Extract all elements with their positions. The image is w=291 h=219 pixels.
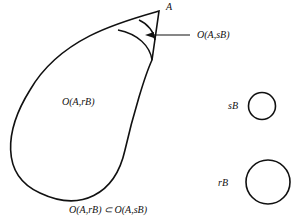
point-a-label: A: [166, 2, 172, 12]
large-ball-circle: [246, 160, 290, 204]
small-ball-circle: [249, 93, 276, 120]
caption: O(A,rB) ⊂ O(A,sB): [69, 205, 147, 215]
outer-region-label: O(A,sB): [197, 30, 230, 40]
small-ball-label: sB: [228, 101, 238, 111]
large-ball-label: rB: [218, 178, 228, 188]
diagram-figure: [0, 0, 291, 219]
pointer-arrowhead: [145, 32, 154, 38]
diagram-canvas: A O(A,sB) O(A,rB) sB rB O(A,rB) ⊂ O(A,sB…: [0, 0, 291, 219]
inner-region-label: O(A,rB): [62, 97, 95, 107]
